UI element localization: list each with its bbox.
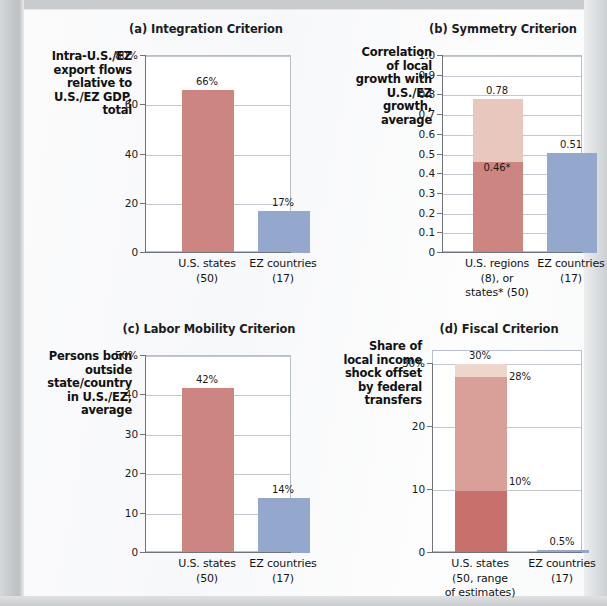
figure-page: (a) Integration CriterionIntra-U.S./EZex… bbox=[0, 0, 607, 606]
y-axis-label-line: by federal bbox=[318, 381, 422, 395]
y-tick-label: 0 bbox=[384, 546, 425, 558]
y-axis-line bbox=[432, 363, 433, 552]
bar-d-us bbox=[455, 364, 507, 553]
y-axis-label-d: Share oflocal incomeshock offsetby feder… bbox=[318, 340, 422, 408]
y-axis-label-line: shock offset bbox=[318, 367, 422, 381]
y-tick-label: 30% bbox=[384, 357, 425, 369]
y-tick-label: 20 bbox=[384, 420, 425, 432]
bar-segment bbox=[455, 490, 507, 553]
y-tick-label: 10 bbox=[384, 483, 425, 495]
x-category-label: EZ countries(17) bbox=[514, 557, 607, 586]
x-category-label-line: of estimates) bbox=[432, 586, 528, 601]
x-axis-line bbox=[432, 552, 582, 553]
y-axis-label-line: transfers bbox=[318, 394, 422, 408]
x-category-label-line: EZ countries bbox=[514, 557, 607, 572]
bar-segment bbox=[455, 364, 507, 377]
x-category-label-line: (17) bbox=[514, 572, 607, 587]
plot-area-d bbox=[432, 350, 582, 552]
bar-segment bbox=[455, 377, 507, 491]
panel-d: (d) Fiscal CriterionShare oflocal income… bbox=[0, 0, 607, 606]
y-axis-label-line: Share of bbox=[318, 340, 422, 354]
bar-value-label: 28% bbox=[509, 371, 555, 382]
bar-value-label: 10% bbox=[509, 476, 555, 487]
panel-title-d: (d) Fiscal Criterion bbox=[414, 322, 584, 336]
bar-value-label: 30% bbox=[454, 350, 506, 361]
bar-value-label: 0.5% bbox=[536, 536, 588, 547]
